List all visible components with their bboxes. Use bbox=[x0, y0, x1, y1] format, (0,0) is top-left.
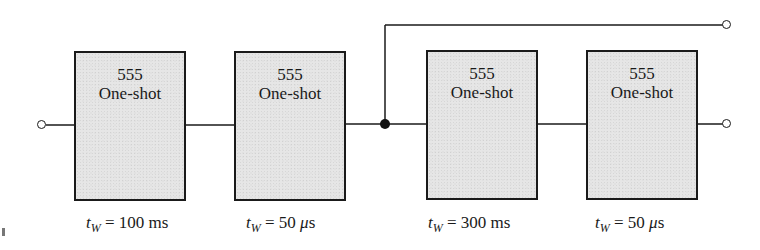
pulse-width-label-3: tW = 300 ms bbox=[428, 213, 510, 233]
one-shot-block-3: 555 One-shot bbox=[426, 50, 538, 200]
page-edge-mark bbox=[2, 228, 5, 236]
junction-dot bbox=[380, 119, 390, 129]
block-kind-label: One-shot bbox=[428, 83, 536, 102]
block-chip-label: 555 bbox=[236, 65, 344, 84]
pulse-width-label-2: tW = 50 μs bbox=[246, 213, 315, 233]
block-kind-label: One-shot bbox=[588, 83, 696, 102]
block-chip-label: 555 bbox=[588, 64, 696, 83]
block-kind-label: One-shot bbox=[76, 84, 184, 103]
block-chip-label: 555 bbox=[76, 65, 184, 84]
block-chip-label: 555 bbox=[428, 64, 536, 83]
block-kind-label: One-shot bbox=[236, 84, 344, 103]
output-terminal-top bbox=[722, 20, 731, 29]
output-terminal-bottom bbox=[722, 119, 731, 128]
one-shot-block-4: 555 One-shot bbox=[586, 50, 698, 200]
one-shot-block-2: 555 One-shot bbox=[234, 51, 346, 201]
pulse-width-label-4: tW = 50 μs bbox=[595, 213, 664, 233]
pulse-width-label-1: tW = 100 ms bbox=[86, 213, 168, 233]
input-terminal bbox=[37, 120, 46, 129]
one-shot-block-1: 555 One-shot bbox=[74, 51, 186, 201]
